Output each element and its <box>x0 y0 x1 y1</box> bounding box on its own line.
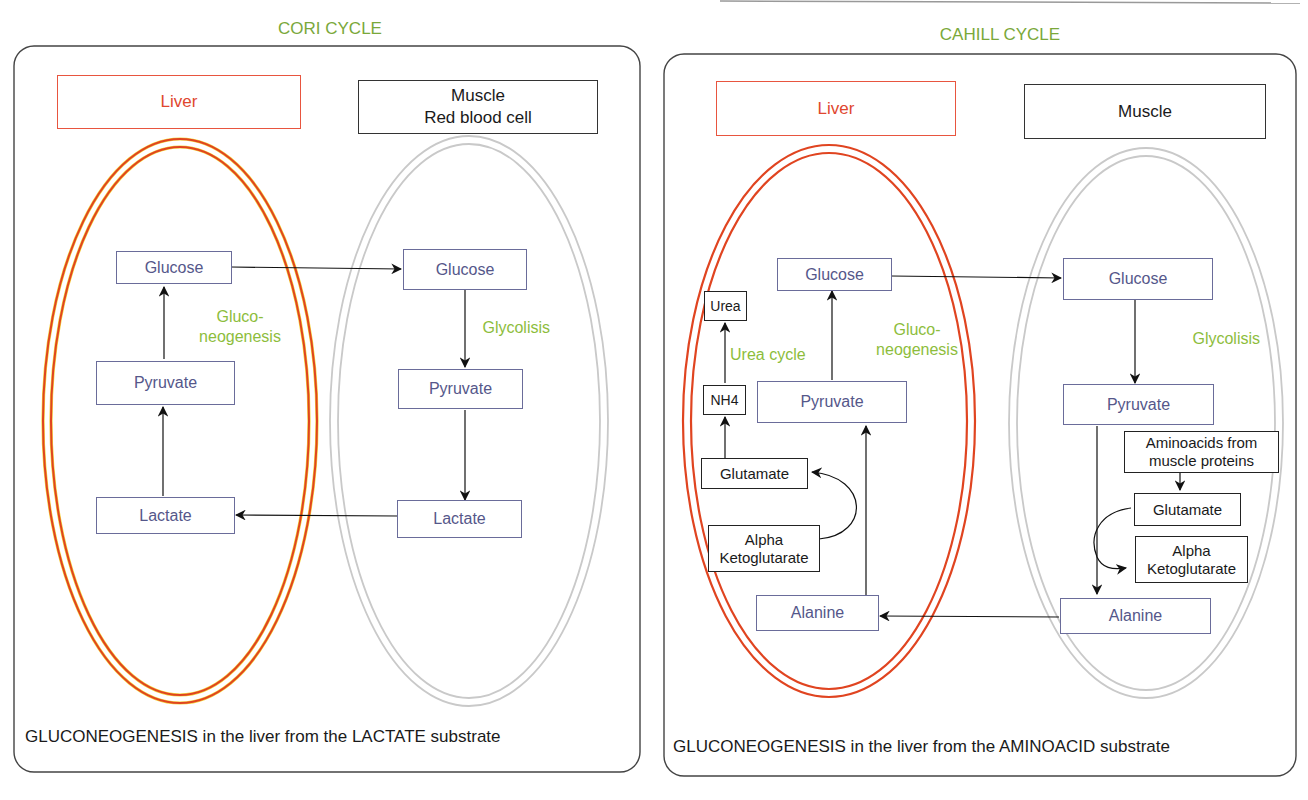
cahill-glycolisis-label: Glycolisis <box>1160 329 1260 349</box>
cahill-gluconeogenesis-line1: Gluco- <box>857 320 977 340</box>
cori-caption: GLUCONEOGENESIS in the liver from the LA… <box>25 727 501 747</box>
cahill-urea-node: Urea <box>704 291 747 321</box>
cori-liver-lactate-node: Lactate <box>96 497 235 534</box>
cori-muscle-label-line1: Muscle <box>451 85 505 107</box>
cahill-cycle-title: CAHILL CYCLE <box>890 25 1110 45</box>
arrow-liver-glucose-to-muscle-glucose <box>231 267 401 269</box>
cori-cycle-title: CORI CYCLE <box>230 19 430 39</box>
arrow-liver-glucose-to-muscle-glucose <box>891 276 1061 278</box>
cori-liver-ellipse <box>43 139 317 703</box>
top-rule <box>720 1 1300 3</box>
cahill-muscle-glucose-node: Glucose <box>1063 258 1213 300</box>
arrow-muscle-glutamate-to-akg <box>1094 508 1131 569</box>
cahill-muscle-pyruvate-node: Pyruvate <box>1063 384 1214 425</box>
cahill-gluconeogenesis-line2: neogenesis <box>857 340 977 360</box>
cahill-muscle-akg-line1: Alpha <box>1172 542 1210 560</box>
cahill-caption-part2: in the liver from the <box>846 737 999 756</box>
cahill-muscle-akg-line2: Ketoglutarate <box>1147 560 1236 578</box>
cahill-liver-glucose-node: Glucose <box>777 258 892 291</box>
arrow-muscle-lactate-to-liver-lactate <box>236 515 398 516</box>
cahill-liver-akg-line2: Ketoglutarate <box>719 549 808 567</box>
cori-glycolisis-label: Glycolisis <box>410 318 550 338</box>
cahill-urea-cycle-label: Urea cycle <box>730 345 806 365</box>
cori-muscle-pyruvate-node: Pyruvate <box>398 369 523 409</box>
cori-liver-label-text: Liver <box>161 91 198 113</box>
cahill-liver-akg-line1: Alpha <box>745 531 783 549</box>
cori-muscle-glucose-node: Glucose <box>403 249 527 290</box>
cori-muscle-lactate-node: Lactate <box>397 500 522 538</box>
cahill-gluconeogenesis-label: Gluco- neogenesis <box>857 320 977 360</box>
cahill-aminoacids-line1: Aminoacids from <box>1146 434 1258 452</box>
cori-muscle-label-line2: Red blood cell <box>424 107 532 129</box>
cori-gluconeogenesis-line2: neogenesis <box>185 327 295 347</box>
cahill-caption-part1: GLUCONEOGENESIS <box>673 737 846 756</box>
cori-liver-glucose-node: Glucose <box>116 251 232 284</box>
cahill-liver-akg-node: Alpha Ketoglutarate <box>708 525 820 572</box>
cori-gluconeogenesis-line1: Gluco- <box>185 307 295 327</box>
cahill-aminoacids-node: Aminoacids from muscle proteins <box>1124 431 1279 473</box>
cahill-muscle-glutamate-node: Glutamate <box>1134 493 1241 526</box>
cori-liver-label: Liver <box>57 75 301 129</box>
cahill-liver-alanine-node: Alanine <box>756 595 879 631</box>
cori-caption-part2: in the liver from the <box>198 727 352 746</box>
cahill-caption: GLUCONEOGENESIS in the liver from the AM… <box>673 737 1170 757</box>
cori-muscle-ellipse <box>330 136 608 706</box>
cahill-liver-label-text: Liver <box>818 98 855 120</box>
cori-caption-part4: substrate <box>426 727 501 746</box>
cahill-liver-label: Liver <box>716 81 956 136</box>
cori-muscle-label: Muscle Red blood cell <box>358 80 598 134</box>
cori-caption-part1: GLUCONEOGENESIS <box>25 727 198 746</box>
cahill-muscle-label: Muscle <box>1024 84 1266 139</box>
cahill-liver-pyruvate-node: Pyruvate <box>757 381 907 423</box>
arrow-muscle-alanine-to-liver-alanine <box>880 616 1059 617</box>
cahill-nh4-node: NH4 <box>703 385 746 415</box>
cahill-caption-part3: AMINOACID <box>999 737 1095 756</box>
cori-caption-part3: LACTATE <box>352 727 426 746</box>
cori-liver-pyruvate-node: Pyruvate <box>96 361 235 405</box>
cahill-aminoacids-line2: muscle proteins <box>1149 452 1254 470</box>
cahill-caption-part4: substrate <box>1095 737 1170 756</box>
cahill-muscle-alanine-node: Alanine <box>1060 598 1211 634</box>
cahill-liver-glutamate-node: Glutamate <box>701 458 808 489</box>
cori-gluconeogenesis-label: Gluco- neogenesis <box>185 307 295 347</box>
cahill-muscle-akg-node: Alpha Ketoglutarate <box>1135 536 1248 583</box>
cahill-muscle-label-text: Muscle <box>1118 101 1172 123</box>
